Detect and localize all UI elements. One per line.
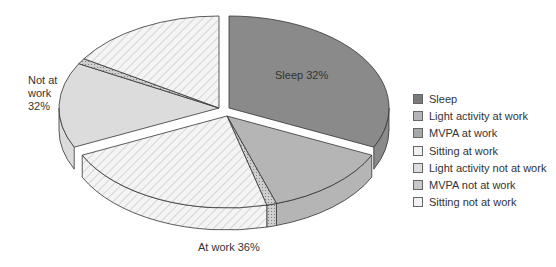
swatch-icon <box>413 180 423 190</box>
swatch-icon <box>413 163 423 173</box>
swatch-icon <box>413 146 423 156</box>
legend-item: Sitting not at work <box>413 194 546 211</box>
legend-label: MVPA at work <box>429 127 497 139</box>
legend: Sleep Light activity at work MVPA at wor… <box>413 90 546 211</box>
legend-label: Sitting at work <box>429 145 498 157</box>
label-at-work: At work 36% <box>198 241 260 254</box>
label-line: work <box>28 87 57 100</box>
legend-item: Sitting at work <box>413 142 546 159</box>
legend-label: Light activity not at work <box>429 162 546 174</box>
label-line: Not at <box>28 74 57 87</box>
legend-item: Light activity not at work <box>413 159 546 176</box>
legend-label: MVPA not at work <box>429 179 516 191</box>
label-not-at-work: Not at work 32% <box>28 74 57 113</box>
swatch-icon <box>413 128 423 138</box>
legend-item: Light activity at work <box>413 107 546 124</box>
legend-label: Sleep <box>429 93 457 105</box>
legend-item: MVPA not at work <box>413 176 546 193</box>
swatch-icon <box>413 111 423 121</box>
label-line: 32% <box>28 100 57 113</box>
legend-item: MVPA at work <box>413 125 546 142</box>
swatch-icon <box>413 197 423 207</box>
slice-side <box>267 203 277 227</box>
legend-item: Sleep <box>413 90 546 107</box>
label-sleep: Sleep 32% <box>275 69 328 82</box>
swatch-icon <box>413 94 423 104</box>
legend-label: Light activity at work <box>429 110 528 122</box>
pie-chart <box>0 0 400 267</box>
legend-label: Sitting not at work <box>429 196 516 208</box>
